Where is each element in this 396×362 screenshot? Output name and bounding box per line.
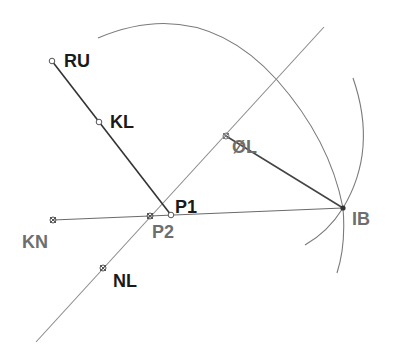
label-kl: KL — [110, 112, 134, 132]
label-p1: P1 — [175, 197, 197, 217]
point-p1-marker — [168, 212, 174, 218]
label-nl: NL — [113, 271, 137, 291]
point-kl-marker — [96, 119, 102, 125]
point-ib-marker — [340, 205, 345, 210]
label-ol: ØL — [232, 137, 257, 157]
label-ib: IB — [352, 209, 370, 229]
label-kn: KN — [22, 232, 48, 252]
label-ru: RU — [64, 51, 90, 71]
point-ru-marker — [49, 58, 55, 64]
label-p2: P2 — [152, 222, 174, 242]
geometry-diagram: RU KL P1 P2 KN NL ØL IB — [0, 0, 396, 362]
